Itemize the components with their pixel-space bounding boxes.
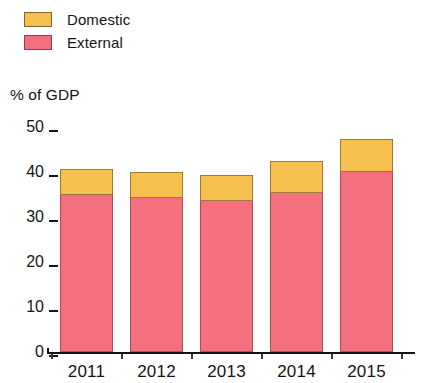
bar-segment-external[interactable] xyxy=(130,198,183,352)
x-axis-tick-mark xyxy=(191,354,193,359)
bar-stack[interactable] xyxy=(340,139,393,352)
y-axis-tick-label: 0 xyxy=(35,344,44,360)
y-axis-tick: 50 xyxy=(26,119,58,135)
bar-stack[interactable] xyxy=(60,169,113,352)
bar-segment-domestic[interactable] xyxy=(270,161,323,193)
x-axis-label: 2015 xyxy=(330,362,403,381)
gdp-debt-stacked-bar-chart: Domestic External % of GDP 0102030405020… xyxy=(0,0,423,383)
bar-segment-domestic[interactable] xyxy=(200,175,253,201)
x-axis-tick-mark xyxy=(51,354,53,359)
x-axis-tick-mark xyxy=(261,354,263,359)
x-axis-start-cap xyxy=(47,348,49,354)
bar-stack[interactable] xyxy=(200,175,253,352)
x-axis-label: 2011 xyxy=(50,362,123,381)
bar-segment-domestic[interactable] xyxy=(340,139,393,172)
y-axis-tick-label: 40 xyxy=(26,164,44,180)
y-axis-tick-label: 50 xyxy=(26,119,44,135)
x-axis-label: 2014 xyxy=(260,362,333,381)
y-axis-tick-mark xyxy=(49,265,58,267)
bar-segment-external[interactable] xyxy=(60,195,113,352)
y-axis-tick-label: 20 xyxy=(26,254,44,270)
bar-segment-external[interactable] xyxy=(270,193,323,352)
bar-segment-external[interactable] xyxy=(340,172,393,352)
x-axis-tick-mark xyxy=(331,354,333,359)
y-axis-tick-label: 30 xyxy=(26,209,44,225)
x-axis-tick-mark xyxy=(401,354,403,359)
y-axis-tick: 30 xyxy=(26,209,58,225)
x-axis-tick-mark xyxy=(121,354,123,359)
bar-stack[interactable] xyxy=(270,161,323,352)
y-axis-tick: 10 xyxy=(26,299,58,315)
bar-segment-domestic[interactable] xyxy=(60,169,113,195)
y-axis-tick: 40 xyxy=(26,164,58,180)
bar-segment-external[interactable] xyxy=(200,201,253,352)
y-axis-tick-mark xyxy=(49,220,58,222)
y-axis-tick: 20 xyxy=(26,254,58,270)
bar-stack[interactable] xyxy=(130,172,183,352)
x-axis-label: 2013 xyxy=(190,362,263,381)
y-axis-tick-mark xyxy=(49,310,58,312)
y-axis-tick-mark xyxy=(49,130,58,132)
y-axis-tick-label: 10 xyxy=(26,299,44,315)
plot-area: 0102030405020112012201320142015 xyxy=(0,0,423,383)
y-axis-tick-mark xyxy=(49,175,58,177)
bar-segment-domestic[interactable] xyxy=(130,172,183,198)
x-axis-label: 2012 xyxy=(120,362,193,381)
x-axis-line xyxy=(47,352,415,354)
